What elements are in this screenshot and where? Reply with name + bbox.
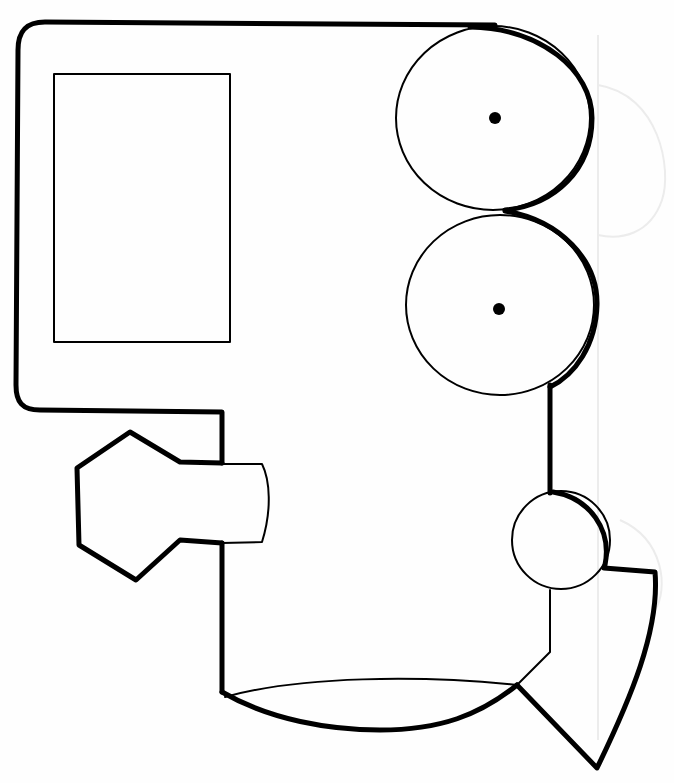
- lower-wheel: [406, 211, 597, 395]
- wheel-hub-icon: [489, 112, 501, 124]
- cab-window: [54, 74, 230, 342]
- wheel-hub-icon: [493, 303, 505, 315]
- smokestack: [77, 432, 222, 580]
- bleed-through-marks: [598, 35, 665, 740]
- cowcatcher: [517, 568, 656, 768]
- boiler-base-bottom: [222, 685, 517, 730]
- boiler-base-top: [225, 679, 517, 697]
- train-outline-drawing: [0, 0, 674, 783]
- drawing-canvas: [0, 0, 674, 783]
- smokestack-neck: [222, 464, 269, 543]
- upper-wheel: [396, 26, 592, 210]
- small-wheel: [512, 491, 610, 589]
- cowcatcher-inner-edge: [517, 590, 550, 685]
